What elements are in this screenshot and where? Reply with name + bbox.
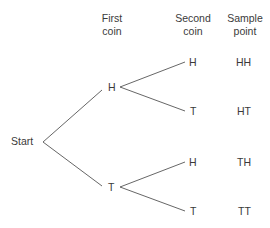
header-first-coin: First coin	[82, 12, 142, 38]
edge-t-t	[120, 187, 185, 211]
node-second-t-2: T	[190, 205, 196, 218]
node-first-t: T	[108, 181, 114, 194]
sample-point-th: TH	[237, 156, 251, 169]
header-sample-point-line1: Sample	[215, 12, 270, 25]
edge-h-h	[120, 62, 185, 87]
edge-h-t	[120, 87, 185, 111]
node-second-t-1: T	[190, 105, 196, 118]
edge-start-h	[43, 90, 102, 142]
header-second-coin-line2: coin	[163, 25, 223, 38]
header-sample-point: Sample point	[215, 12, 270, 38]
header-first-coin-line2: coin	[82, 25, 142, 38]
sample-point-ht: HT	[237, 105, 251, 118]
header-sample-point-line2: point	[215, 25, 270, 38]
header-second-coin: Second coin	[163, 12, 223, 38]
node-start: Start	[11, 135, 33, 148]
edge-t-h	[120, 162, 185, 187]
node-first-h: H	[108, 81, 116, 94]
header-second-coin-line1: Second	[163, 12, 223, 25]
sample-point-tt: TT	[238, 205, 251, 218]
node-second-h-2: H	[189, 156, 197, 169]
sample-point-hh: HH	[236, 56, 251, 69]
header-first-coin-line1: First	[82, 12, 142, 25]
node-second-h-1: H	[189, 56, 197, 69]
edge-start-t	[43, 142, 102, 186]
